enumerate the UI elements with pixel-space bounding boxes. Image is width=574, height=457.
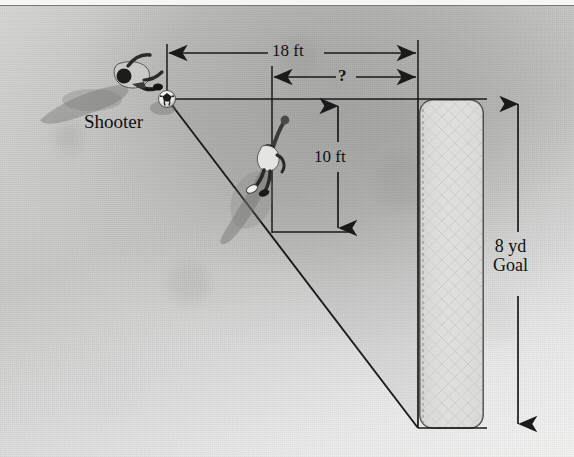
goal-label-line-1: 8 yd bbox=[493, 237, 528, 256]
goal-label-line-2: Goal bbox=[493, 256, 528, 275]
shooter-label: Shooter bbox=[84, 112, 143, 132]
diagram-overlay bbox=[0, 0, 574, 457]
dimension-label-18ft: 18 ft bbox=[272, 42, 304, 60]
soccer-ball bbox=[150, 91, 176, 116]
soccer-goal-diagram: Shooter 18 ft ? 10 ft 8 yd Goal bbox=[0, 0, 574, 457]
dimension-label-8yd-goal: 8 yd Goal bbox=[493, 237, 528, 275]
dimension-label-10ft: 10 ft bbox=[314, 148, 346, 166]
dimension-label-unknown: ? bbox=[338, 67, 347, 85]
goal-net bbox=[420, 100, 483, 428]
